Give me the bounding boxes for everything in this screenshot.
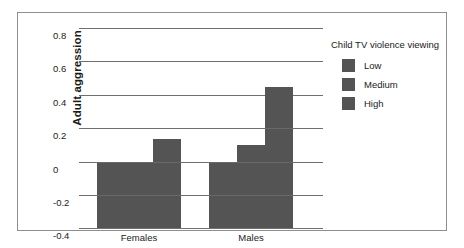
x-tick-label-males: Males	[201, 232, 301, 243]
chart-screenshot: Adult aggression 0.8 0.6 0.4 0.2 0 -0.2 …	[0, 0, 464, 248]
gridline-overlay	[79, 195, 323, 196]
bar-males-high	[265, 87, 293, 162]
y-tick-label: 0.2	[53, 130, 77, 141]
y-tick-label: 0	[53, 164, 77, 175]
x-tick-label-females: Females	[89, 232, 189, 243]
bar-females-low	[97, 162, 125, 187]
y-tick-label: 0.8	[53, 30, 77, 41]
legend-label: High	[364, 98, 384, 109]
legend-swatch-icon	[342, 78, 355, 91]
bar-females-medium	[125, 162, 153, 194]
y-tick-label: -0.4	[53, 230, 77, 241]
bar-males-low-extent	[209, 187, 237, 228]
bar-females-high	[153, 139, 181, 162]
legend-title: Child TV violence viewing	[331, 39, 461, 50]
gridline-overlay	[79, 162, 323, 163]
y-tick-label: 0.4	[53, 97, 77, 108]
bar-males-medium	[237, 145, 265, 162]
gridline-overlay	[79, 128, 323, 129]
legend-swatch-icon	[342, 97, 355, 110]
y-tick-label: -0.2	[53, 197, 77, 208]
gridline-overlay	[79, 228, 323, 229]
chart-frame: Adult aggression 0.8 0.6 0.4 0.2 0 -0.2 …	[17, 12, 447, 231]
bar-females-medium-extent	[125, 194, 153, 228]
legend-item-medium: Medium	[342, 75, 461, 94]
bar-males-low	[209, 162, 237, 187]
legend-label: Low	[364, 60, 381, 71]
chart-legend: Child TV violence viewing Low Medium Hig…	[331, 39, 461, 113]
plot-area: 0.8 0.6 0.4 0.2 0 -0.2 -0.4	[79, 28, 323, 229]
legend-item-high: High	[342, 94, 461, 113]
gridline	[79, 28, 323, 29]
y-tick-label: 0.6	[53, 63, 77, 74]
legend-swatch-icon	[342, 59, 355, 72]
legend-label: Medium	[364, 79, 398, 90]
gridline	[79, 61, 323, 62]
bar-females-low-extent	[97, 187, 125, 228]
legend-item-low: Low	[342, 56, 461, 75]
